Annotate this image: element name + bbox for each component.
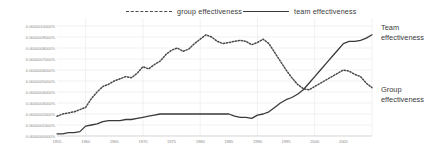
x-axis-labels: 1955196019651970197519801985199019952000… [0,0,436,151]
x-axis-tick-label: 1980 [196,139,205,144]
x-axis-tick-label: 1995 [282,139,291,144]
x-axis-tick-label: 1955 [53,139,62,144]
annotation-group-line2: effectiveness [381,95,424,105]
x-axis-tick-label: 1975 [167,139,176,144]
x-axis-tick-label: 1970 [138,139,147,144]
annotation-team-effectiveness: Team effectiveness [381,23,424,42]
x-axis-tick-label: 1960 [81,139,90,144]
annotation-team-line1: Team [381,23,424,33]
x-axis-tick-label: 1965 [110,139,119,144]
effectiveness-line-chart: group effectiveness team effectiveness 0… [0,0,436,151]
annotation-team-line2: effectiveness [381,33,424,43]
x-axis-tick-label: 1985 [224,139,233,144]
x-axis-tick-label: 1990 [253,139,262,144]
annotation-group-effectiveness: Group effectiveness [381,85,424,104]
x-axis-tick-label: 2005 [339,139,348,144]
annotation-group-line1: Group [381,85,424,95]
x-axis-tick-label: 2000 [310,139,319,144]
